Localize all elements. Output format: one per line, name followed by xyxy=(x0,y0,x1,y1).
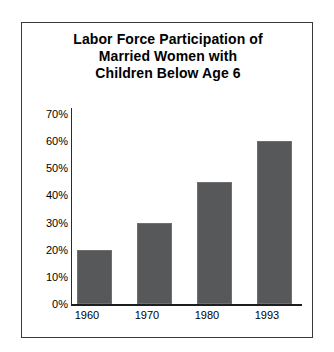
y-axis-tick-label-50: 50% xyxy=(24,163,68,174)
bar-1993[interactable] xyxy=(257,114,292,304)
bar-1980[interactable] xyxy=(197,114,232,304)
y-axis-tick-label-40: 40% xyxy=(24,190,68,201)
bar-1960[interactable] xyxy=(77,114,112,304)
bar-rect-1993 xyxy=(257,141,292,304)
bar-rect-1970 xyxy=(137,223,172,304)
x-axis-tick-label-1970: 1970 xyxy=(122,309,172,321)
x-axis-tick-label-1980: 1980 xyxy=(182,309,232,321)
y-axis-tick-label-70: 70% xyxy=(24,109,68,120)
y-axis-tick-labels: 70% 60% 50% 40% 30% 20% 10% 0% xyxy=(22,23,68,339)
bar-rect-1980 xyxy=(197,182,232,304)
y-axis-tick-label-60: 60% xyxy=(24,136,68,147)
bar-rect-1960 xyxy=(77,250,112,304)
bar-1970[interactable] xyxy=(137,114,172,304)
y-axis-tick-label-10: 10% xyxy=(24,272,68,283)
x-axis-line xyxy=(71,304,302,306)
y-axis-tick-label-30: 30% xyxy=(24,218,68,229)
x-axis-tick-label-1960: 1960 xyxy=(62,309,112,321)
plot-area xyxy=(71,114,302,304)
x-axis-tick-label-1993: 1993 xyxy=(242,309,292,321)
y-axis-tick-label-20: 20% xyxy=(24,245,68,256)
chart-frame: Labor Force Participation of Married Wom… xyxy=(21,22,313,338)
